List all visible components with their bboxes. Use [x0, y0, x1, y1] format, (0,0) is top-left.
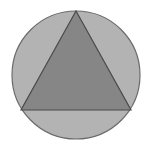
geometric-figure: Triangle inscribed in circle: [0, 0, 151, 149]
